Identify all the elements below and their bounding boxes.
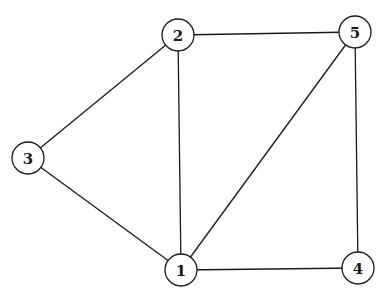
node-1: 1 [165, 254, 197, 286]
edge-2-3 [28, 35, 178, 158]
edge-5-4 [355, 32, 358, 268]
node-4: 4 [342, 252, 374, 284]
node-label: 5 [350, 24, 360, 42]
edge-2-5 [178, 32, 355, 35]
node-label: 4 [353, 260, 363, 278]
node-label: 3 [23, 150, 33, 168]
nodes-layer: 12345 [12, 16, 374, 286]
edge-1-5 [181, 32, 355, 270]
node-2: 2 [162, 19, 194, 51]
edges-layer [28, 32, 358, 270]
edge-1-4 [181, 268, 358, 270]
node-5: 5 [339, 16, 371, 48]
edge-2-1 [178, 35, 181, 270]
node-label: 1 [176, 262, 186, 280]
node-3: 3 [12, 142, 44, 174]
node-label: 2 [173, 27, 183, 45]
edge-3-1 [28, 158, 181, 270]
graph-diagram: 12345 [0, 0, 392, 307]
